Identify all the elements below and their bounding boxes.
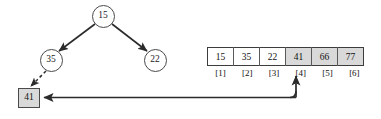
tree-node-right-label: 22 — [150, 55, 160, 65]
tree-node-left: 35 — [40, 49, 63, 72]
tree-node-new-value-label: 41 — [24, 93, 34, 103]
tree-edge-root-to-left — [59, 24, 95, 51]
array-index-5: [5] — [314, 68, 341, 79]
tree-edge-left-to-new-dashed — [31, 71, 46, 86]
array-index-3: [3] — [261, 68, 288, 79]
array-index-2: [2] — [234, 68, 261, 79]
tree-edge-root-to-right — [112, 24, 147, 51]
array-table: 15 35 22 41 66 77 — [207, 47, 364, 66]
tree-node-right: 22 — [144, 49, 167, 72]
diagram-canvas: 15 35 22 41 15 35 22 41 66 77 [1] [2] [3… — [0, 0, 381, 119]
array-cell-5: 66 — [312, 48, 338, 66]
array-index-4: [4] — [287, 68, 314, 79]
tree-node-left-label: 35 — [46, 55, 56, 65]
array-cell-6: 77 — [338, 48, 364, 66]
tree-node-new-value-box: 41 — [18, 88, 40, 108]
tree-node-root: 15 — [92, 5, 115, 28]
array-index-1: [1] — [207, 68, 234, 79]
array-index-6: [6] — [341, 68, 368, 79]
array-cell-1: 15 — [208, 48, 234, 66]
tree-node-root-label: 15 — [98, 11, 108, 21]
array-value-row: 15 35 22 41 66 77 — [208, 48, 364, 66]
array-cell-4: 41 — [286, 48, 312, 66]
pointer-corner — [290, 91, 296, 98]
array-index-row: [1] [2] [3] [4] [5] [6] — [207, 68, 368, 79]
array-cell-3: 22 — [260, 48, 286, 66]
array-cell-2: 35 — [234, 48, 260, 66]
